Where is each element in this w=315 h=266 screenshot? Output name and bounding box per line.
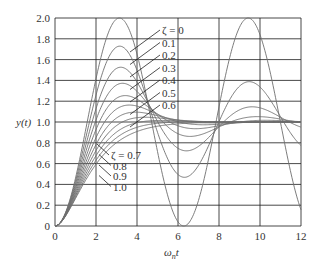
x-tick-label: 6 (175, 230, 181, 242)
x-tick-label: 12 (296, 230, 307, 242)
leader-line (130, 80, 160, 102)
x-tick-label: 0 (52, 230, 58, 242)
y-tick-label: 0.4 (36, 178, 50, 190)
x-tick-label: 4 (134, 230, 140, 242)
y-tick-label: 1.4 (36, 74, 50, 86)
zeta-label-upper: 0.3 (162, 62, 176, 74)
zeta-label-upper: 0.6 (162, 99, 176, 111)
leader-line (130, 55, 160, 77)
y-tick-label: 0 (45, 220, 51, 232)
x-axis-ticks: 024681012 (52, 230, 306, 242)
step-response-chart: 00.20.40.60.81.01.21.41.61.82.0 02468101… (0, 0, 315, 266)
zeta-label-lower: 1.0 (113, 181, 127, 193)
leader-line (130, 30, 160, 52)
zeta-labels: ζ = 00.10.20.30.40.50.6ζ = 0.70.80.91.0 (111, 24, 184, 193)
y-axis-ticks: 00.20.40.60.81.01.21.41.61.82.0 (36, 12, 50, 232)
zeta-label-upper: 0.2 (162, 49, 176, 61)
y-tick-label: 1.6 (36, 54, 50, 66)
y-tick-label: 0.8 (36, 137, 50, 149)
x-tick-label: 10 (255, 230, 267, 242)
x-tick-label: 2 (93, 230, 99, 242)
zeta-label-upper: ζ = 0 (162, 24, 184, 37)
y-axis-label: y(t) (15, 116, 32, 129)
y-tick-label: 1.0 (36, 116, 50, 128)
leader-line (99, 165, 111, 176)
zeta-label-upper: 0.4 (162, 74, 176, 86)
y-tick-label: 1.8 (36, 33, 50, 45)
y-tick-label: 2.0 (36, 12, 50, 24)
x-axis-label: ωnt (164, 246, 180, 261)
zeta-label-upper: 0.1 (162, 37, 176, 49)
y-tick-label: 0.2 (36, 199, 50, 211)
y-tick-label: 1.2 (36, 95, 50, 107)
leader-line (99, 176, 111, 187)
zeta-label-upper: 0.5 (162, 87, 176, 99)
y-tick-label: 0.6 (36, 158, 50, 170)
x-tick-label: 8 (216, 230, 222, 242)
